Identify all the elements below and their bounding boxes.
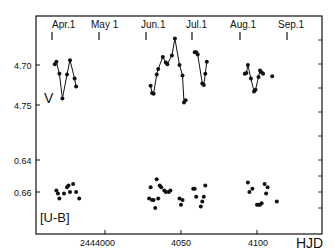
light-curve-figure: Apr.1 May 1 Jun.1 Jul.1 Aug.1 Sep.1 4.70…	[0, 0, 334, 252]
plot-frame	[36, 16, 322, 234]
data-point	[202, 195, 206, 199]
data-point	[202, 83, 206, 87]
v-tick-475: 4.75	[14, 101, 32, 111]
data-point	[156, 196, 160, 200]
month-label-may: May 1	[91, 19, 119, 30]
data-point	[152, 198, 156, 202]
data-point	[203, 184, 207, 188]
data-point	[74, 85, 78, 89]
data-point	[170, 53, 174, 57]
month-label-jul: Jul.1	[186, 19, 208, 30]
data-point	[73, 77, 77, 81]
data-point	[246, 63, 250, 67]
data-point	[179, 203, 183, 207]
v-tick-470: 4.70	[14, 61, 32, 71]
data-point	[57, 196, 61, 200]
data-point	[153, 206, 157, 210]
month-axis: Apr.1 May 1 Jun.1 Jul.1 Aug.1 Sep.1	[52, 19, 305, 40]
data-point	[159, 185, 163, 189]
data-point	[77, 196, 81, 200]
data-point	[194, 195, 198, 199]
data-point	[266, 185, 270, 189]
data-point	[250, 187, 254, 191]
data-point	[60, 97, 64, 101]
data-point	[200, 200, 204, 204]
data-point	[199, 204, 203, 208]
data-point	[254, 88, 258, 92]
data-point	[149, 185, 153, 189]
data-point	[181, 73, 185, 77]
x-tick-2444000: 2444000	[80, 238, 115, 248]
data-point	[184, 98, 188, 102]
month-label-sep: Sep.1	[278, 19, 305, 30]
month-label-aug: Aug.1	[230, 19, 257, 30]
data-point	[156, 67, 160, 71]
data-point	[56, 192, 60, 196]
data-point	[275, 200, 279, 204]
data-point	[246, 180, 250, 184]
data-point	[155, 73, 159, 77]
x-tick-4050: 4050	[171, 238, 191, 248]
data-point	[196, 53, 200, 57]
data-point	[168, 188, 172, 192]
data-point	[57, 72, 61, 76]
data-point	[178, 63, 182, 67]
data-point	[71, 182, 75, 186]
data-point	[62, 192, 66, 196]
ub-tick-066: 0.66	[14, 188, 32, 198]
data-point	[205, 60, 209, 64]
month-label-jun: Jun.1	[141, 19, 166, 30]
x-tick-4100: 4100	[248, 238, 268, 248]
data-point	[54, 60, 58, 64]
data-point	[257, 75, 261, 79]
data-point	[270, 74, 274, 78]
data-point	[68, 58, 72, 62]
ub-panel-label: [U-B]	[40, 210, 70, 225]
data-point	[161, 55, 165, 59]
month-label-apr: Apr.1	[52, 19, 76, 30]
data-point	[65, 73, 69, 77]
data-point	[261, 72, 265, 76]
data-point	[165, 62, 169, 66]
data-point	[203, 72, 207, 76]
data-point	[260, 201, 264, 205]
data-point	[152, 92, 156, 96]
data-point	[149, 84, 153, 88]
data-point	[263, 182, 267, 186]
ub-tick-064: 0.64	[14, 156, 32, 166]
data-point	[74, 190, 78, 194]
ub-color-curve	[54, 177, 278, 210]
data-point	[68, 190, 72, 194]
data-point	[193, 187, 197, 191]
data-point	[249, 77, 253, 81]
data-point	[264, 192, 268, 196]
data-point	[173, 37, 177, 41]
data-point	[67, 184, 71, 188]
v-panel-label: V	[44, 90, 54, 106]
data-point	[247, 190, 251, 194]
x-axis-label: HJD	[296, 235, 323, 251]
data-point	[244, 71, 248, 75]
data-point	[155, 177, 159, 181]
data-point	[181, 198, 185, 202]
v-light-curve	[53, 37, 274, 105]
